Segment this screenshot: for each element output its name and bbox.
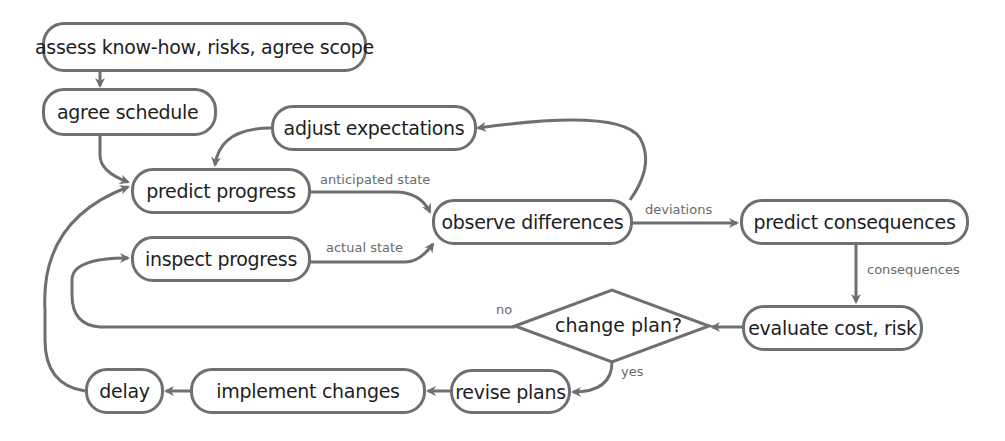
edge-adjust-predict — [215, 128, 271, 165]
node-agree-schedule: agree schedule — [42, 88, 217, 136]
label-actual-state: actual state — [326, 240, 403, 255]
label-no: no — [496, 302, 512, 317]
node-assess: assess know-how, risks, agree scope — [42, 22, 367, 72]
decision-change-plan: change plan? — [555, 314, 682, 336]
node-predict-consequences: predict consequences — [740, 199, 969, 245]
node-inspect-progress: inspect progress — [131, 236, 311, 282]
node-implement-changes: implement changes — [190, 368, 426, 414]
node-adjust-expectations: adjust expectations — [271, 105, 477, 151]
label-anticipated-state: anticipated state — [320, 172, 430, 187]
node-delay: delay — [85, 368, 164, 414]
edge-decision-yes — [573, 362, 612, 392]
node-revise-plans: revise plans — [450, 369, 571, 414]
edge-predict-observe — [310, 192, 430, 212]
edge-observe-adjust — [478, 120, 646, 200]
edge-schedule-predict — [100, 136, 128, 182]
node-observe-differences: observe differences — [432, 199, 633, 245]
node-evaluate-cost-risk: evaluate cost, risk — [742, 305, 923, 351]
edge-delay-predict — [45, 187, 128, 391]
label-yes: yes — [621, 364, 643, 379]
node-predict-progress: predict progress — [131, 168, 311, 214]
label-deviations: deviations — [645, 202, 712, 217]
label-consequences: consequences — [867, 262, 960, 277]
